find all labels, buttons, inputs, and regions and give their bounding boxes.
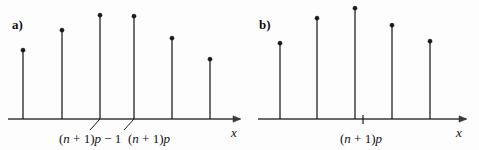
stem-plot-figure: a) b) (n + 1)p − 1 (n + 1)p (n + 1)p x x bbox=[0, 0, 479, 150]
panel-a-stem-dot-6 bbox=[208, 57, 212, 61]
panel-a-stem-dot-4 bbox=[132, 14, 136, 18]
panel-a-stem-dot-5 bbox=[170, 36, 174, 40]
panel-b bbox=[258, 6, 467, 124]
panel-a-stem-dot-1 bbox=[21, 48, 25, 52]
panel-b-x-axis-arrowhead bbox=[459, 116, 467, 122]
panel-b-label-np: (n + 1)p bbox=[340, 132, 382, 145]
panel-a-label-np: (n + 1)p bbox=[128, 132, 170, 145]
panel-b-x-axis-label: x bbox=[456, 126, 462, 139]
panel-b-stem-dot-2 bbox=[315, 16, 319, 20]
figure-graphics bbox=[8, 6, 467, 130]
panel-a-leader-line-2 bbox=[124, 119, 134, 130]
panel-a-label-np-minus-1: (n + 1)p − 1 bbox=[59, 132, 121, 145]
figure-canvas bbox=[0, 0, 479, 150]
panel-b-stem-dot-4 bbox=[390, 23, 394, 27]
panel-a-x-axis-label: x bbox=[231, 126, 237, 139]
panel-b-letter: b) bbox=[259, 18, 271, 31]
panel-b-stem-dot-3 bbox=[353, 6, 357, 10]
panel-a-stem-dot-3 bbox=[98, 13, 102, 17]
panel-b-stem-dot-1 bbox=[278, 41, 282, 45]
panel-a-letter: a) bbox=[12, 18, 23, 31]
panel-a-leader-line-1 bbox=[90, 119, 100, 130]
panel-b-stem-dot-5 bbox=[428, 39, 432, 43]
panel-a-stem-dot-2 bbox=[60, 28, 64, 32]
panel-a-x-axis-arrowhead bbox=[233, 116, 241, 122]
panel-a bbox=[8, 13, 241, 130]
